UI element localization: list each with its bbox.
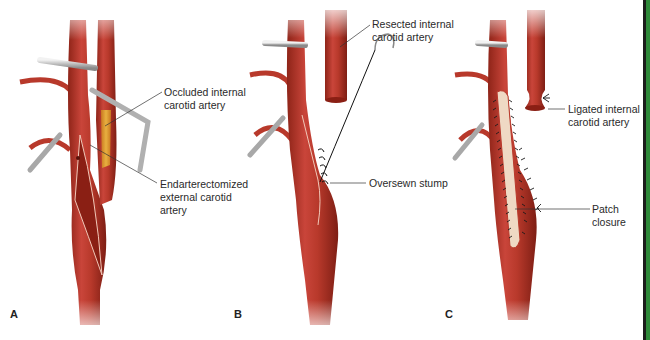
panel-letter-c: C	[445, 308, 453, 320]
carotid-illustration	[0, 0, 650, 340]
label-occluded-ica: Occluded internal carotid artery	[164, 86, 246, 112]
label-resected-ica: Resected internal carotid artery	[372, 18, 454, 44]
label-oversewn-stump: Oversewn stump	[369, 177, 448, 190]
panel-c-artery	[455, 0, 560, 340]
panel-a-artery	[20, 0, 148, 340]
label-ligated-ica: Ligated internal carotid artery	[568, 103, 640, 129]
panel-letter-a: A	[10, 308, 18, 320]
page-edge-bar	[643, 0, 650, 340]
label-endarterectomized-eca: Endarterectomized external carotid arter…	[160, 178, 248, 217]
panel-letter-b: B	[234, 308, 242, 320]
panel-b-artery	[250, 0, 394, 340]
label-patch-closure: Patch closure	[592, 203, 626, 229]
